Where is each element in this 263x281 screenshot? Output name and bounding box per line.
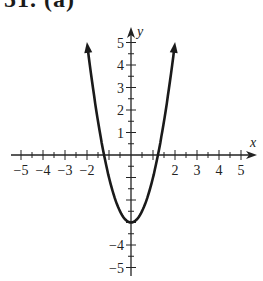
curve-left-arrow-icon bbox=[84, 42, 92, 53]
y-tick-label: −4 bbox=[109, 238, 124, 253]
x-tick-label: −2 bbox=[80, 163, 95, 178]
y-axis-label: y bbox=[135, 24, 144, 39]
x-tick-label: −5 bbox=[14, 163, 29, 178]
x-tick-label: 3 bbox=[194, 163, 201, 178]
x-tick-label: 5 bbox=[238, 163, 245, 178]
x-tick-label: −3 bbox=[58, 163, 73, 178]
y-tick-label: −5 bbox=[109, 261, 124, 276]
curve-right-arrow-icon bbox=[170, 42, 178, 53]
x-axis-label: x bbox=[249, 135, 257, 150]
x-tick-label: 4 bbox=[216, 163, 223, 178]
y-tick-label: 4 bbox=[117, 58, 124, 73]
parabola-chart: −5−4−3−2234554321−4−5xy bbox=[0, 0, 263, 281]
y-tick-label: 1 bbox=[117, 126, 124, 141]
y-tick-label: 2 bbox=[117, 103, 124, 118]
x-tick-label: −4 bbox=[36, 163, 51, 178]
x-tick-label: 2 bbox=[172, 163, 179, 178]
y-tick-label: 3 bbox=[117, 81, 124, 96]
y-tick-label: 5 bbox=[117, 36, 124, 51]
